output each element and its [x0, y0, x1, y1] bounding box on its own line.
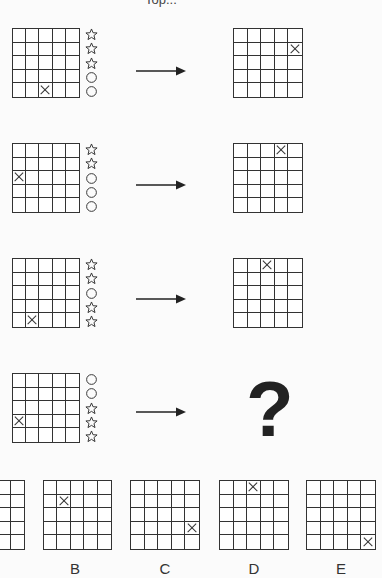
grid-cell	[348, 481, 362, 495]
row-1-output-grid	[233, 28, 303, 98]
grid-cell	[261, 535, 275, 549]
grid-cell	[39, 374, 52, 388]
grid-cell	[274, 495, 288, 509]
grid-cell	[234, 171, 248, 185]
grid-cell	[0, 495, 11, 509]
grid-cell	[261, 495, 275, 509]
option-e-grid[interactable]	[306, 480, 376, 550]
grid-cell	[248, 171, 262, 185]
grid-cell	[26, 185, 39, 199]
grid-cell	[145, 495, 159, 509]
option-c-grid[interactable]	[130, 480, 200, 550]
grid-cell	[145, 508, 159, 522]
grid-cell	[11, 535, 24, 549]
grid-cell	[66, 273, 79, 287]
grid-cell	[26, 43, 39, 57]
x-mark-icon	[361, 535, 375, 549]
grid-cell	[288, 70, 302, 84]
x-mark-icon	[288, 43, 302, 57]
grid-cell	[261, 313, 275, 327]
grid-cell	[361, 508, 375, 522]
grid-cell	[13, 300, 26, 314]
option-a-grid[interactable]	[0, 480, 25, 550]
star-icon	[85, 157, 98, 170]
row-4-symbols	[84, 373, 98, 443]
grid-cell	[98, 481, 111, 495]
grid-cell	[53, 171, 66, 185]
grid-cell	[234, 508, 248, 522]
grid-cell	[248, 144, 262, 158]
circle-icon	[85, 85, 98, 98]
grid-cell	[307, 522, 321, 536]
grid-cell	[185, 495, 199, 509]
grid-cell	[0, 535, 11, 549]
grid-cell	[234, 273, 248, 287]
grid-cell	[248, 313, 262, 327]
grid-cell	[39, 198, 52, 212]
grid-cell	[234, 481, 248, 495]
grid-cell	[334, 481, 348, 495]
grid-cell	[131, 495, 145, 509]
row-2-input-grid	[12, 143, 80, 213]
grid-cell	[26, 374, 39, 388]
grid-cell	[13, 388, 26, 402]
grid-cell	[13, 259, 26, 273]
grid-cell	[13, 29, 26, 43]
grid-cell	[158, 508, 172, 522]
grid-cell	[261, 83, 275, 97]
grid-cell	[158, 495, 172, 509]
grid-cell	[288, 56, 302, 70]
grid-cell	[307, 508, 321, 522]
grid-cell	[234, 158, 248, 172]
grid-cell	[71, 481, 84, 495]
grid-cell	[248, 259, 262, 273]
grid-cell	[274, 481, 288, 495]
grid-cell	[13, 313, 26, 327]
grid-cell	[288, 286, 302, 300]
grid-cell	[53, 313, 66, 327]
grid-cell	[84, 481, 97, 495]
grid-cell	[234, 495, 248, 509]
grid-cell	[234, 43, 248, 57]
grid-cell	[13, 43, 26, 57]
grid-cell	[321, 522, 335, 536]
grid-cell	[13, 273, 26, 287]
grid-cell	[53, 415, 66, 429]
grid-cell	[274, 522, 288, 536]
grid-cell	[361, 495, 375, 509]
grid-cell	[348, 522, 362, 536]
grid-cell	[361, 522, 375, 536]
grid-cell	[39, 43, 52, 57]
option-b-grid[interactable]	[43, 480, 112, 550]
row-3-output-grid	[233, 258, 303, 328]
grid-cell	[131, 522, 145, 536]
grid-cell	[261, 171, 275, 185]
grid-cell	[39, 401, 52, 415]
grid-cell	[261, 522, 275, 536]
grid-cell	[39, 185, 52, 199]
grid-cell	[0, 481, 11, 495]
star-icon	[85, 315, 98, 328]
star-icon	[85, 416, 98, 429]
grid-cell	[39, 428, 52, 442]
grid-cell	[53, 158, 66, 172]
grid-cell	[248, 56, 262, 70]
grid-cell	[53, 286, 66, 300]
grid-cell	[66, 313, 79, 327]
grid-cell	[275, 171, 289, 185]
grid-cell	[57, 508, 70, 522]
grid-cell	[66, 83, 79, 97]
grid-cell	[234, 70, 248, 84]
grid-cell	[39, 273, 52, 287]
grid-cell	[13, 83, 26, 97]
grid-cell	[334, 522, 348, 536]
grid-cell	[248, 158, 262, 172]
grid-cell	[66, 29, 79, 43]
circle-icon	[85, 287, 98, 300]
grid-cell	[248, 198, 262, 212]
grid-cell	[71, 535, 84, 549]
grid-cell	[261, 273, 275, 287]
grid-cell	[11, 495, 24, 509]
grid-cell	[248, 185, 262, 199]
option-d-grid[interactable]	[219, 480, 289, 550]
